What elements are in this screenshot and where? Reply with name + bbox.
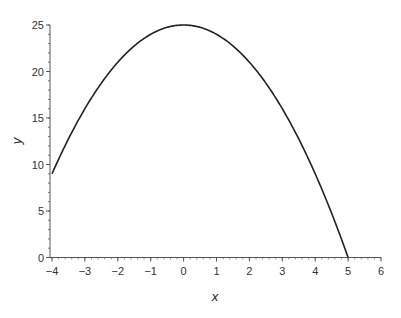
x-tick-label: 2 <box>246 265 252 277</box>
y-tick-label: 0 <box>38 252 44 264</box>
y-tick-label: 25 <box>32 19 44 31</box>
line-chart: 0510152025 −4−3−2−10123456 x y <box>0 0 401 318</box>
x-tick-label: 4 <box>312 265 318 277</box>
x-tick-label: −2 <box>112 265 125 277</box>
series-line <box>52 25 348 258</box>
plot-area <box>52 25 348 258</box>
x-tick-label: −3 <box>79 265 92 277</box>
x-axis: −4−3−2−10123456 <box>46 258 384 277</box>
y-tick-label: 20 <box>32 66 44 78</box>
y-tick-label: 10 <box>32 159 44 171</box>
y-axis-label: y <box>9 136 24 145</box>
y-tick-label: 5 <box>38 205 44 217</box>
x-tick-label: −1 <box>144 265 157 277</box>
x-tick-label: 0 <box>181 265 187 277</box>
y-tick-label: 15 <box>32 112 44 124</box>
x-axis-label: x <box>211 289 219 304</box>
x-tick-label: 5 <box>345 265 351 277</box>
x-tick-label: 3 <box>279 265 285 277</box>
y-axis: 0510152025 <box>32 19 50 264</box>
x-tick-label: 6 <box>378 265 384 277</box>
x-tick-label: 1 <box>213 265 219 277</box>
x-tick-label: −4 <box>46 265 59 277</box>
